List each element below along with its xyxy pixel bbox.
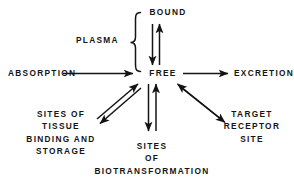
node-target-receptor-site: TARGET RECEPTOR SITE (224, 110, 280, 147)
node-receptor-line-2: RECEPTOR (224, 122, 280, 130)
node-biotransformation-line-2: OF (94, 154, 209, 162)
node-tissue-line-4: STORAGE (26, 147, 95, 155)
node-tissue-binding-storage: SITES OF TISSUE BINDING AND STORAGE (26, 110, 95, 160)
node-tissue-line-1: SITES OF (26, 110, 95, 118)
node-tissue-line-2: TISSUE (26, 122, 95, 130)
node-receptor-line-3: SITE (224, 135, 280, 143)
node-receptor-line-1: TARGET (224, 110, 280, 118)
node-bound: BOUND (150, 8, 187, 16)
free-to-receptor-down-arrow (181, 88, 225, 123)
node-excretion: EXCRETION (234, 69, 294, 77)
node-free: FREE (149, 69, 176, 77)
node-tissue-line-3: BINDING AND (26, 135, 95, 143)
node-plasma: PLASMA (76, 36, 119, 44)
node-biotransformation-line-1: SITES (94, 142, 209, 150)
tissue-to-free-up-arrow (97, 84, 138, 119)
node-biotransformation-line-3: BIOTRANSFORMATION (94, 167, 209, 175)
plasma-curly-brace (131, 13, 141, 72)
node-biotransformation: SITES OF BIOTRANSFORMATION (94, 142, 209, 179)
free-to-tissue-down-arrow (100, 88, 141, 124)
node-absorption: ABSORPTION (8, 69, 76, 77)
diagram-canvas: BOUND PLASMA ABSORPTION FREE EXCRETION S… (0, 0, 294, 189)
